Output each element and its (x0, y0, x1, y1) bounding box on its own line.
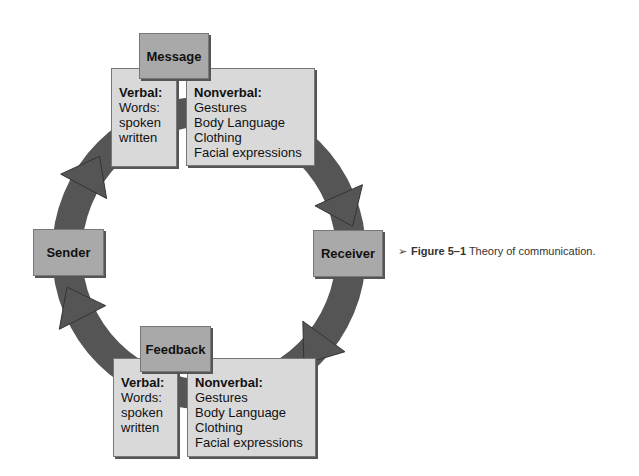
message-verbal-item: written (119, 130, 170, 145)
feedback-node: Feedback (140, 326, 211, 372)
message-nonverbal-item: Gestures (194, 100, 308, 115)
feedback-nonverbal-item: Facial expressions (195, 435, 309, 450)
feedback-nonverbal-item: Clothing (195, 420, 309, 435)
message-verbal-item: Words: (119, 100, 170, 115)
message-verbal-title: Verbal: (119, 85, 170, 100)
message-verbal-box: Verbal: Words: spoken written (111, 68, 177, 167)
message-nonverbal-title: Nonverbal: (194, 85, 308, 100)
message-node: Message (139, 33, 209, 79)
feedback-nonverbal-box: Nonverbal: Gestures Body Language Clothi… (187, 358, 316, 457)
caption-marker-icon: ➢ (398, 245, 407, 257)
figure-label: Figure 5–1 (411, 245, 466, 257)
message-nonverbal-item: Clothing (194, 130, 308, 145)
message-verbal-item: spoken (119, 115, 170, 130)
feedback-nonverbal-item: Body Language (195, 405, 309, 420)
feedback-verbal-box: Verbal: Words: spoken written (113, 358, 178, 457)
feedback-verbal-item: spoken (121, 405, 171, 420)
message-nonverbal-item: Facial expressions (194, 145, 308, 160)
caption-text: Theory of communication. (469, 245, 596, 257)
feedback-verbal-item: written (121, 420, 171, 435)
feedback-nonverbal-title: Nonverbal: (195, 375, 309, 390)
message-nonverbal-box: Nonverbal: Gestures Body Language Clothi… (186, 68, 315, 166)
sender-node: Sender (33, 229, 104, 276)
message-nonverbal-item: Body Language (194, 115, 308, 130)
receiver-node: Receiver (313, 230, 383, 277)
feedback-verbal-title: Verbal: (121, 375, 171, 390)
feedback-nonverbal-item: Gestures (195, 390, 309, 405)
feedback-verbal-item: Words: (121, 390, 171, 405)
figure-caption: ➢Figure 5–1 Theory of communication. (398, 245, 595, 258)
